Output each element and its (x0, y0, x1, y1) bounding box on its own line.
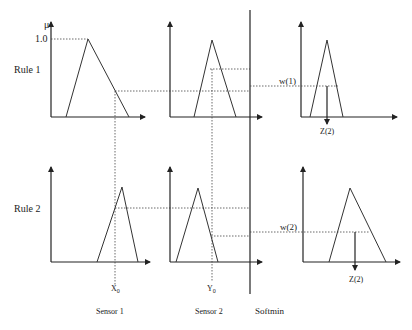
fuzzy-inference-diagram: μ 1.0 Rule 1 Rule 2 w(1) w(2) Z(2) Z(2) … (0, 0, 412, 330)
sensor2-label: Sensor 2 (195, 307, 223, 316)
rule1-sensor1-plot (51, 22, 250, 117)
z-bottom-label: Z(2) (349, 275, 364, 284)
w1-label: w(1) (279, 76, 296, 86)
y0-label: Y0 (207, 284, 216, 294)
rule2-output-plot (250, 167, 400, 270)
z-top-label: Z(2) (320, 127, 335, 136)
w2-label: w(2) (280, 222, 297, 232)
rule2-sensor1-plot (51, 167, 250, 262)
rule1-sensor2-plot (170, 22, 262, 117)
membership-triangle (329, 188, 386, 262)
rule2-sensor2-plot (170, 167, 262, 262)
membership-triangle (66, 39, 129, 117)
rule2-label: Rule 2 (14, 203, 40, 214)
mu-label: μ (44, 19, 49, 30)
membership-triangle (97, 187, 138, 262)
rule1-output-plot (250, 22, 397, 124)
rule1-label: Rule 1 (14, 64, 40, 75)
one-label: 1.0 (35, 33, 48, 44)
membership-triangle (194, 40, 236, 117)
sensor1-label: Sensor 1 (96, 307, 124, 316)
x0-label: X0 (111, 284, 120, 294)
softmin-label: Softmin (255, 306, 285, 316)
